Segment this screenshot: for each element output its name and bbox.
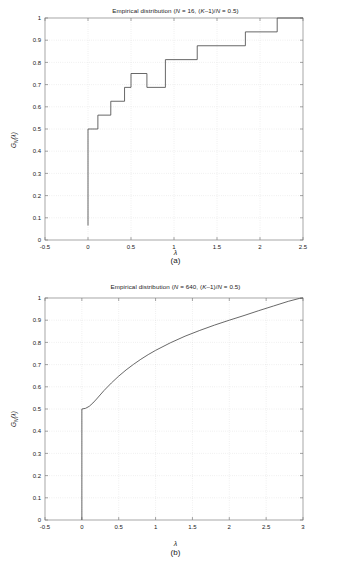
- panel-b-plot: -0.500.511.522.5300.10.20.30.40.50.60.70…: [0, 276, 351, 538]
- panel-a-svg: -0.500.511.522.500.10.20.30.40.50.60.70.…: [0, 0, 351, 260]
- y-tick-label: 0.6: [33, 104, 42, 110]
- y-tick-label: 0.3: [33, 171, 42, 177]
- panel-a-xlabel: λ: [0, 249, 351, 256]
- y-tick-label: 0.5: [33, 126, 42, 132]
- y-tick-label: 0.4: [33, 148, 42, 154]
- panel-a: Empirical distribution (N = 16, (K–1)/N …: [0, 0, 351, 275]
- y-tick-label: 0.8: [33, 340, 42, 346]
- y-tick-label: 0.1: [33, 215, 42, 221]
- x-tick-label: 0: [80, 524, 84, 530]
- y-tick-label: 0: [38, 237, 42, 243]
- y-tick-label: 0.7: [33, 82, 42, 88]
- y-tick-label: 0.5: [33, 406, 42, 412]
- x-tick-label: 0.5: [115, 524, 124, 530]
- y-tick-label: 1: [38, 15, 42, 21]
- panel-b: Empirical distribution (N = 640, (K–1)/N…: [0, 272, 351, 563]
- panel-a-plot: -0.500.511.522.500.10.20.30.40.50.60.70.…: [0, 0, 351, 260]
- y-tick-label: 0.9: [33, 37, 42, 43]
- y-tick-label: 0: [38, 517, 42, 523]
- y-tick-label: 0.9: [33, 317, 42, 323]
- y-tick-label: 0.8: [33, 60, 42, 66]
- panel-b-xlabel: λ: [0, 540, 351, 547]
- x-tick-label: -0.5: [40, 524, 51, 530]
- y-tick-label: 0.2: [33, 193, 42, 199]
- y-tick-label: 0.1: [33, 495, 42, 501]
- y-tick-label: 0.2: [33, 473, 42, 479]
- y-tick-label: 0.3: [33, 451, 42, 457]
- panel-b-svg: -0.500.511.522.5300.10.20.30.40.50.60.70…: [0, 276, 351, 538]
- y-tick-label: 0.7: [33, 362, 42, 368]
- data-series-line: [88, 18, 303, 226]
- x-tick-label: 3: [301, 524, 305, 530]
- y-tick-label: 0.4: [33, 428, 42, 434]
- x-tick-label: 1.5: [188, 524, 197, 530]
- panel-b-caption: (b): [0, 548, 351, 557]
- x-tick-label: 2.5: [262, 524, 271, 530]
- x-tick-label: 1: [154, 524, 158, 530]
- y-tick-label: 0.6: [33, 384, 42, 390]
- y-tick-label: 1: [38, 295, 42, 301]
- panel-a-caption: (a): [0, 256, 351, 265]
- figure-container: Empirical distribution (N = 16, (K–1)/N …: [0, 0, 351, 563]
- x-tick-label: 2: [228, 524, 232, 530]
